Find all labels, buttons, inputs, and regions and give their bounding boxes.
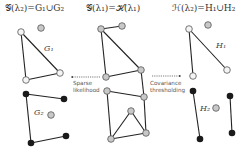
node xyxy=(229,130,236,137)
graph-g2 xyxy=(26,94,66,143)
label-h2: H₂ xyxy=(199,104,210,113)
node xyxy=(108,136,115,143)
node xyxy=(186,26,193,33)
graph-middle xyxy=(101,26,146,139)
node xyxy=(98,26,105,33)
isolated-node xyxy=(205,22,212,29)
label-g1: G₁ xyxy=(44,44,54,53)
node xyxy=(143,130,150,137)
arrow-left-label-2: likelihood xyxy=(73,87,100,93)
node xyxy=(141,94,148,101)
node xyxy=(128,108,135,115)
arrow-right-label-2: thresholding xyxy=(150,87,185,94)
node xyxy=(224,67,231,74)
arrow-right-label-1: Covariance xyxy=(150,80,182,86)
node xyxy=(119,23,126,30)
node xyxy=(103,74,110,81)
node xyxy=(57,70,64,77)
graph-h2 xyxy=(193,91,232,139)
isolated-node xyxy=(48,112,55,119)
node xyxy=(197,136,204,143)
diagram-svg: 𝒢(λ₂)=G₁∪G₂ 𝒢(λ₁)=ℋ(λ₁) ℋ(λ₂)=H₁∪H₂ G₁ xyxy=(0,0,249,153)
middle-panel-title: 𝒢(λ₁)=ℋ(λ₁) xyxy=(86,3,140,13)
label-g2: G₂ xyxy=(34,108,44,117)
g1-nodes xyxy=(18,25,64,84)
node xyxy=(138,67,145,74)
isolated-node xyxy=(213,105,220,112)
g2-nodes xyxy=(23,91,70,147)
left-panel-title: 𝒢(λ₂)=G₁∪G₂ xyxy=(5,3,64,13)
graph-g1 xyxy=(21,32,60,80)
node xyxy=(104,88,111,95)
node xyxy=(190,73,197,80)
graph-h1 xyxy=(189,29,227,76)
label-h1: H₁ xyxy=(215,41,226,50)
middle-nodes xyxy=(98,23,150,143)
isolated-node xyxy=(38,25,45,32)
node xyxy=(61,96,68,103)
arrow-left-label-1: Sparse xyxy=(73,80,93,87)
node xyxy=(227,93,234,100)
node xyxy=(23,91,30,98)
node xyxy=(63,133,70,140)
node xyxy=(23,77,30,84)
node xyxy=(190,88,197,95)
node xyxy=(18,29,25,36)
node xyxy=(28,140,35,147)
right-panel-title: ℋ(λ₂)=H₁∪H₂ xyxy=(172,3,236,13)
graph-diagram: 𝒢(λ₂)=G₁∪G₂ 𝒢(λ₁)=ℋ(λ₁) ℋ(λ₂)=H₁∪H₂ G₁ xyxy=(0,0,249,153)
